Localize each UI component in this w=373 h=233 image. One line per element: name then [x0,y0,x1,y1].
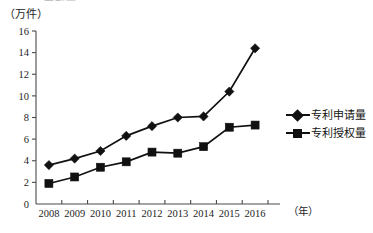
x-tick-label: 2011 [116,208,137,219]
data-point-diamond [96,146,105,155]
y-tick-label: 4 [24,155,30,166]
x-tick-label: 2010 [90,208,111,219]
data-point-square [71,173,79,181]
data-series-group [44,44,259,188]
y-tick-label: 10 [19,91,30,102]
data-point-diamond [122,131,131,140]
y-tick-label: 6 [24,134,29,145]
legend-item-applications: 专利申请量 [286,106,372,124]
data-point-square [225,123,233,131]
legend: 专利申请量 专利授权量 [286,106,372,142]
x-tick-label: 2016 [245,208,266,219]
y-tick-label: 16 [19,26,30,37]
legend-item-grants: 专利授权量 [286,124,372,142]
y-tick-label: 2 [24,177,29,188]
y-tick-label: 0 [24,199,29,210]
legend-label-applications: 专利申请量 [310,109,366,122]
square-marker-icon [286,126,310,140]
line-chart-figure: 专利量 （万件） 0246810121416 20082009201020112… [0,0,373,233]
legend-label-grants: 专利授权量 [310,127,366,140]
data-point-diamond [173,113,182,122]
data-point-square [174,149,182,157]
x-tick-label: 2015 [219,208,240,219]
data-point-square [148,148,156,156]
data-point-diamond [251,44,260,53]
y-tick-label: 14 [19,47,30,58]
x-axis-unit-label: （年） [288,205,318,217]
x-tick-label: 2009 [64,208,85,219]
y-tick-label: 12 [19,69,30,80]
x-tick-label: 2013 [167,208,188,219]
y-axis: 0246810121416 [19,26,37,210]
data-point-square [251,121,259,129]
diamond-marker-icon [286,108,310,122]
data-point-diamond [147,122,156,131]
data-point-square [45,179,53,187]
y-tick-label: 8 [24,112,29,123]
x-tick-label: 2014 [193,208,215,219]
data-point-diamond [70,154,79,163]
data-point-diamond [44,160,53,169]
x-axis: 200820092010201120122013201420152016 [36,200,280,219]
x-tick-label: 2012 [142,208,163,219]
data-point-square [122,158,130,166]
data-point-square [96,163,104,171]
series-line-1 [49,48,255,165]
data-point-square [200,143,208,151]
x-tick-label: 2008 [38,208,59,219]
